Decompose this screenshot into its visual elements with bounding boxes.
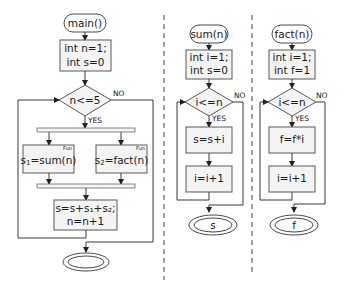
sum-step1-label: s=s+i bbox=[193, 133, 224, 145]
sum-end-label: s bbox=[210, 219, 215, 231]
fact-init-line2: int f=1 bbox=[274, 64, 310, 76]
sum-init-line2: int s=0 bbox=[190, 64, 228, 76]
fact-flowchart: fact(n) int i=1; int f=1 i<=n NO YES f=f… bbox=[260, 25, 328, 235]
sum-step2-label: i=i+1 bbox=[194, 172, 224, 184]
main-init-line2: int s=0 bbox=[67, 56, 105, 68]
main-no-label: NO bbox=[113, 89, 125, 98]
fact-end-label: f bbox=[292, 219, 296, 231]
sum-condition-label: i<=n bbox=[195, 96, 222, 108]
main-flowchart: main() int n=1; int s=0 n<=5 NO YES Fun … bbox=[18, 14, 153, 271]
fact-start-label: fact(n) bbox=[275, 28, 310, 40]
fact-call-fun-tag: Fun bbox=[136, 145, 145, 151]
sum-no-label: NO bbox=[234, 91, 246, 100]
main-join-bar bbox=[37, 184, 135, 188]
fact-condition-label: i<=n bbox=[278, 96, 305, 108]
main-update-line1: s=s+s₁+s₂; bbox=[55, 202, 115, 214]
main-yes-label: YES bbox=[87, 116, 102, 125]
main-fork-bar bbox=[37, 128, 135, 132]
sum-yes-label: YES bbox=[211, 114, 226, 123]
sum-start-label: sum(n) bbox=[190, 28, 227, 40]
main-condition-label: n<=5 bbox=[70, 94, 101, 106]
main-start-label: main() bbox=[68, 17, 102, 29]
fact-init-line1: int i=1; bbox=[273, 51, 312, 63]
sum-flowchart: sum(n) int i=1; int s=0 i<=n NO YES s=s+… bbox=[177, 25, 246, 235]
fact-yes-label: YES bbox=[294, 114, 309, 123]
fact-step1-label: f=f*i bbox=[280, 133, 304, 145]
fact-no-label: NO bbox=[316, 91, 328, 100]
main-init-line1: int n=1; bbox=[64, 42, 107, 54]
sum-call-fun-tag: Fun bbox=[63, 145, 72, 151]
sum-init-line1: int i=1; bbox=[190, 51, 229, 63]
fact-step2-label: i=i+1 bbox=[277, 172, 307, 184]
flowchart-diagram: main() int n=1; int s=0 n<=5 NO YES Fun … bbox=[0, 0, 349, 286]
main-update-line2: n=n+1 bbox=[67, 215, 105, 227]
